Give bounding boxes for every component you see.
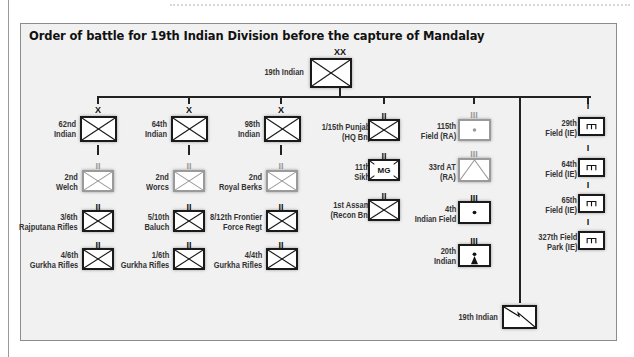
eng327-symbol[interactable] <box>578 231 605 250</box>
infantry-cross-icon <box>268 212 296 230</box>
infantry-cross-icon <box>82 118 115 140</box>
signals-label: 19th Indian <box>459 312 498 322</box>
bn-gurkha46-symbol[interactable] <box>82 248 114 270</box>
engineer-icon <box>580 119 603 134</box>
bn-gurkha16-symbol[interactable] <box>173 248 205 270</box>
stem-98 <box>280 145 282 155</box>
at33-symbol[interactable] <box>458 158 491 182</box>
eng64-symbol[interactable] <box>578 158 605 177</box>
infantry-cross-icon <box>268 250 296 268</box>
bn-frontier-symbol[interactable] <box>266 210 298 232</box>
infantry-cross-icon <box>370 121 398 139</box>
signals-line <box>519 96 521 303</box>
bn-berks-label: 2nd Royal Berks <box>219 172 262 192</box>
mtn20-label: 20th Indian <box>434 246 456 266</box>
division-echelon: XX <box>322 48 358 57</box>
drop-62 <box>97 96 99 104</box>
eng29-label: 29th Field (IE) <box>545 118 577 138</box>
field4-label: 4th Indian Field <box>414 204 456 224</box>
drop-artillery <box>473 96 475 104</box>
anti-tank-icon <box>460 160 489 180</box>
bn-rajputana-symbol[interactable] <box>82 210 114 232</box>
infantry-cross-icon <box>175 172 203 190</box>
bn-baluch-label: 5/10th Baluch <box>144 212 169 232</box>
bn-worcs-symbol[interactable] <box>173 170 205 192</box>
bn-gurkha46-label: 4/6th Gurkha Rifles <box>29 250 78 270</box>
bn-welch-label: 2nd Welch <box>56 172 78 192</box>
signals-symbol[interactable] <box>502 305 537 329</box>
bn-frontier-label: 8/12th Frontier Force Regt <box>210 212 262 232</box>
brigade-98-echelon: X <box>271 106 291 115</box>
bn-berks-symbol[interactable] <box>266 170 298 192</box>
brigade-64-echelon: X <box>179 106 199 115</box>
eng65-echelon: I <box>578 181 598 190</box>
punjab-symbol[interactable] <box>368 119 400 141</box>
mg-text: MG <box>370 166 398 175</box>
brigade-62-label: 62nd Indian <box>54 119 76 139</box>
brigade-62-echelon: X <box>88 106 108 115</box>
eng65-label: 65th Field (IE) <box>545 195 577 215</box>
division-symbol[interactable] <box>310 58 352 88</box>
drop-98 <box>280 96 282 104</box>
bn-baluch-symbol[interactable] <box>173 210 205 232</box>
clipped-body-text <box>170 0 630 6</box>
bn-gurkha16-label: 1/6th Gurkha Rifles <box>120 250 169 270</box>
infantry-cross-icon <box>84 172 112 190</box>
engineer-icon <box>580 160 603 175</box>
mtn20-symbol[interactable] <box>458 244 491 267</box>
infantry-cross-icon <box>173 118 206 140</box>
bn-worcs-label: 2nd Worcs <box>146 172 169 192</box>
punjab-label: 1/15th Punjab (HQ Bn) <box>321 122 370 142</box>
eng327-echelon: I <box>578 218 598 227</box>
bn-gurkha44-label: 4/4th Gurkha Rifles <box>213 250 262 270</box>
infantry-cross-icon <box>84 212 112 230</box>
signals-lightning-icon <box>504 307 535 327</box>
drop-64 <box>188 96 190 104</box>
infantry-cross-icon <box>175 212 203 230</box>
brigade-98-label: 98th Indian <box>238 119 260 139</box>
eng29-symbol[interactable] <box>578 117 605 136</box>
field115-symbol[interactable] <box>458 119 491 141</box>
eng29-echelon: I <box>578 102 598 111</box>
field4-symbol[interactable] <box>458 201 491 224</box>
drop-divtroops <box>383 96 385 104</box>
eng64-echelon: I <box>578 144 598 153</box>
stem-64 <box>188 145 190 155</box>
infantry-cross-icon <box>312 60 350 86</box>
infantry-cross-icon <box>84 250 112 268</box>
brigade-64-label: 64th Indian <box>145 119 167 139</box>
brigade-62-symbol[interactable] <box>80 116 117 142</box>
bn-welch-symbol[interactable] <box>82 170 114 192</box>
engineer-icon <box>580 196 603 211</box>
page-edge-line <box>8 0 9 357</box>
eng65-symbol[interactable] <box>578 194 605 213</box>
artillery-dot-icon <box>460 121 489 139</box>
division-label: 19th Indian <box>265 67 304 77</box>
infantry-cross-icon <box>266 118 299 140</box>
diagram-title: Order of battle for 19th Indian Division… <box>29 29 484 43</box>
brigade-98-symbol[interactable] <box>264 116 301 142</box>
field115-label: 115th Field (RA) <box>421 121 456 141</box>
eng327-label: 327th Field Park (IE) <box>538 232 577 252</box>
infantry-cross-icon <box>370 201 398 219</box>
artillery-dot-icon <box>460 203 489 222</box>
eng64-label: 64th Field (IE) <box>545 159 577 179</box>
stem-62 <box>97 145 99 155</box>
mountain-artillery-icon <box>460 246 489 265</box>
main-bus-right <box>278 96 591 98</box>
infantry-cross-icon <box>175 250 203 268</box>
bn-gurkha44-symbol[interactable] <box>266 248 298 270</box>
sikh-symbol[interactable]: MG <box>368 159 400 181</box>
assam-label: 1st Assam (Recon Bn) <box>330 200 370 220</box>
assam-symbol[interactable] <box>368 199 400 221</box>
infantry-cross-icon <box>268 172 296 190</box>
at33-label: 33rd AT (RA) <box>429 162 456 182</box>
engineer-icon <box>580 233 603 248</box>
bn-rajputana-label: 3/6th Rajputana Rifles <box>19 212 78 232</box>
brigade-64-symbol[interactable] <box>171 116 208 142</box>
